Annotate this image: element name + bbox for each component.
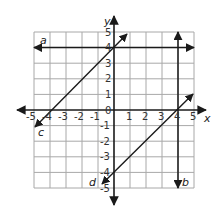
y-tick: 3 <box>105 58 111 69</box>
x-tick: 2 <box>142 111 148 122</box>
x-tick: 1 <box>126 111 132 122</box>
y-tick: 2 <box>105 73 111 84</box>
line-d-label: d <box>89 176 97 189</box>
y-tick: -3 <box>100 151 110 162</box>
y-tick: -2 <box>100 136 110 147</box>
coordinate-plane: y x a b c d -5 -4 -3 -2 -1 1 2 3 4 5 5 4… <box>0 0 219 210</box>
y-tick: 4 <box>105 42 111 53</box>
x-tick: 3 <box>158 111 164 122</box>
x-tick: 5 <box>190 111 196 122</box>
y-tick: 5 <box>105 27 111 38</box>
line-a-label: a <box>40 34 47 47</box>
x-tick: -4 <box>42 111 52 122</box>
x-axis-label: x <box>203 112 211 125</box>
y-tick: 0 <box>105 105 111 116</box>
y-tick: 1 <box>105 89 111 100</box>
y-tick: -5 <box>100 183 110 194</box>
line-c-label: c <box>38 126 44 139</box>
x-tick: -5 <box>26 111 36 122</box>
line-d <box>102 94 193 184</box>
line-b-label: b <box>182 176 189 189</box>
x-tick: 4 <box>174 111 180 122</box>
y-tick: -4 <box>100 167 110 178</box>
x-tick: -1 <box>90 111 100 122</box>
y-tick: -1 <box>100 120 110 131</box>
x-tick: -3 <box>58 111 68 122</box>
x-tick: -2 <box>74 111 84 122</box>
